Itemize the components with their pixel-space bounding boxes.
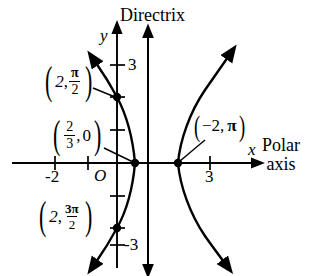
open-paren: ( — [45, 67, 52, 96]
point-marker-negative-2-pi — [174, 159, 182, 167]
comma: , — [64, 73, 68, 90]
close-paren: ) — [85, 67, 92, 96]
theta-value: π — [224, 117, 236, 134]
open-paren: ( — [39, 202, 46, 231]
leader-line-negative-2-pi — [180, 140, 205, 161]
open-paren: ( — [194, 114, 200, 137]
x-tick-label--2: -2 — [45, 168, 59, 185]
theta-numerator: 3π — [63, 202, 81, 216]
theta-numerator: π — [69, 66, 81, 81]
point-marker-two-thirds-zero — [131, 159, 139, 167]
theta-value: 0 — [81, 127, 92, 144]
y-tick-label-3: 3 — [128, 56, 137, 73]
label-point-2-three-pi-over-2: ( 2 , 3π 2 ) — [36, 202, 95, 231]
origin-label: O — [94, 167, 106, 184]
point-marker-2-pi-over-2 — [113, 93, 121, 101]
polar-axis-line-2: axis — [262, 155, 300, 174]
x-axis-label: x — [248, 141, 256, 158]
point-marker-2-three-pi-over-2 — [113, 224, 121, 232]
theta-denominator: 2 — [67, 216, 78, 231]
polar-conic-figure: Directrix y x Polar axis O -2 3 3 -3 ( 2… — [0, 0, 325, 276]
x-tick-label-3: 3 — [205, 168, 214, 185]
polar-axis-label: Polar axis — [262, 136, 300, 174]
close-paren: ) — [94, 121, 101, 150]
radius-denominator: 3 — [64, 135, 75, 151]
radius-numerator: 2 — [64, 120, 75, 135]
comma: , — [58, 208, 62, 225]
close-paren: ) — [85, 202, 92, 231]
directrix-label: Directrix — [120, 6, 185, 24]
polar-axis-line-1: Polar — [262, 136, 300, 155]
close-paren: ) — [239, 114, 245, 137]
leader-line-two-thirds — [104, 148, 133, 162]
y-tick-label--3: -3 — [124, 236, 138, 253]
radius-value: 2 — [49, 208, 58, 225]
radius-fraction: 2 3 — [64, 120, 75, 151]
label-point-2-pi-over-2: ( 2 , π 2 ) — [42, 66, 95, 97]
open-paren: ( — [53, 121, 60, 150]
label-point-negative-2-pi: ( −2 , π ) — [192, 114, 247, 137]
theta-fraction: π 2 — [69, 66, 81, 97]
radius-value: −2 — [202, 117, 220, 134]
y-axis-label: y — [100, 27, 108, 44]
label-point-two-thirds-zero: ( 2 3 , 0 ) — [50, 120, 104, 151]
theta-denominator: 2 — [69, 81, 80, 97]
radius-value: 2 — [55, 73, 64, 90]
theta-fraction: 3π 2 — [63, 202, 81, 231]
curve-right-branch — [178, 57, 228, 262]
y-axis — [110, 32, 125, 268]
